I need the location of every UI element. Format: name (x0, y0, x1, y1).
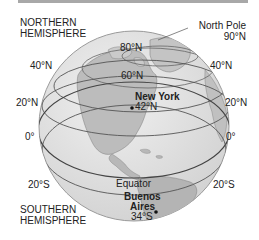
southern-hemisphere-label: SOUTHERN HEMISPHERE (20, 204, 86, 226)
lat-label-80n: 80°N (120, 42, 142, 53)
lat-label-right-20n: 20°N (225, 97, 247, 108)
north-pole-label: North Pole 90°N (180, 20, 246, 42)
lat-label-left-20s: 20°S (28, 179, 50, 190)
lat-label-right-40n: 40°N (210, 60, 232, 71)
lat-label-60n: 60°N (121, 70, 143, 81)
lat-label-left-0: 0° (25, 131, 35, 142)
northern-hemisphere-label: NORTHERN HEMISPHERE (20, 17, 86, 39)
buenos-aires-lat: 34°S (131, 211, 153, 222)
equator-label: Equator (116, 178, 151, 189)
new-york-lat: 42°N (135, 101, 157, 112)
lat-label-left-20n: 20°N (16, 97, 38, 108)
lat-label-right-0: 0° (226, 131, 236, 142)
new-york-dot (130, 106, 134, 110)
lat-label-right-20s: 20°S (213, 179, 235, 190)
lat-label-left-40n: 40°N (30, 60, 52, 71)
